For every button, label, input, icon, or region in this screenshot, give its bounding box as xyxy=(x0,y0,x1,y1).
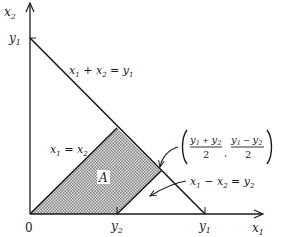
origin-label: 0 xyxy=(25,221,33,235)
y-axis-label: x2 xyxy=(4,5,16,21)
diff-line-label: x1 − x2 = y2 xyxy=(190,175,255,190)
point-num-2: y1 − y2 xyxy=(230,134,262,147)
y1-horizontal-label: y1 xyxy=(198,219,211,235)
y1-vertical-label: y1 xyxy=(8,31,21,47)
point-callout-arrow xyxy=(160,147,178,167)
point-num-1: y1 + y2 xyxy=(189,134,221,147)
region-a xyxy=(30,128,161,214)
x-axis-label: x1 xyxy=(252,221,264,237)
point-den-2: 2 xyxy=(245,149,251,160)
point-den-1: 2 xyxy=(203,149,209,160)
region-diagram: x2 x1 0 y1 y2 y1 x1 + x2 = y1 x1 = x2 x1… xyxy=(0,0,286,237)
intersection-point-label: y1 + y2 2 , y1 − y2 2 xyxy=(183,130,272,164)
sum-line-label: x1 + x2 = y1 xyxy=(69,64,134,79)
region-label: A xyxy=(98,171,108,185)
y2-horizontal-label: y2 xyxy=(110,219,123,235)
point-comma: , xyxy=(224,147,227,158)
right-paren xyxy=(267,130,272,164)
left-paren xyxy=(183,130,188,164)
diagonal-label: x1 = x2 xyxy=(50,143,88,158)
